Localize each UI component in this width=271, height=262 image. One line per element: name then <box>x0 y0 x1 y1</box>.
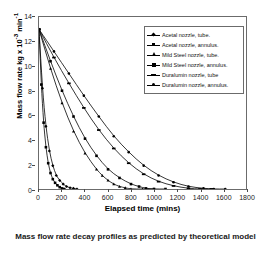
series-line <box>39 29 154 189</box>
x-tick-label: 1200 <box>170 194 186 201</box>
legend-item: Mild Steel nozzle, annulus. <box>147 60 240 70</box>
series-marker <box>61 101 64 104</box>
series-marker <box>164 188 167 189</box>
figure-caption: Mass flow rate decay profiles as predict… <box>10 232 261 242</box>
x-axis-title: Elapsed time (mins) <box>38 204 247 213</box>
series-marker <box>84 152 87 155</box>
x-tick-mark <box>131 189 132 192</box>
series-marker <box>44 125 47 128</box>
series-marker <box>42 121 45 124</box>
series-marker <box>138 185 141 188</box>
series-marker <box>107 168 110 171</box>
series-marker <box>56 184 59 187</box>
series-marker <box>187 185 190 188</box>
series-marker <box>98 115 101 118</box>
series-marker <box>83 94 86 97</box>
series-marker <box>127 151 130 154</box>
legend-marker-icon <box>147 81 160 89</box>
series-marker <box>142 173 146 175</box>
legend-item: Duralumin nozzle, tube <box>147 70 240 80</box>
legend-label: Mild Steel nozzle, annulus. <box>162 62 227 68</box>
series-marker <box>142 164 145 167</box>
x-tick-label: 1400 <box>193 194 209 201</box>
x-tick-mark <box>224 189 225 192</box>
series-marker <box>82 107 86 109</box>
series-marker <box>53 50 56 53</box>
series-marker <box>49 67 52 70</box>
series-marker <box>52 178 55 181</box>
series-marker <box>48 149 51 152</box>
series-marker <box>202 187 205 189</box>
x-tick-mark <box>108 189 109 192</box>
legend-marker-icon <box>147 71 160 79</box>
y-tick-label: 12 <box>24 37 32 44</box>
y-tick-mark <box>32 16 35 17</box>
legend-marker-icon <box>147 61 160 69</box>
series-marker <box>127 162 131 164</box>
x-tick-mark <box>177 189 178 192</box>
series-marker <box>68 186 71 189</box>
series-marker <box>67 82 71 84</box>
y-tick-mark <box>32 91 35 92</box>
series-marker <box>45 146 48 149</box>
series-marker <box>84 137 87 140</box>
series-marker <box>157 181 161 183</box>
legend-item: Mild Steel nozzle, tube. <box>147 50 240 60</box>
series-marker <box>157 174 160 177</box>
legend-label: Acetal nozzle, annulus. <box>162 42 219 48</box>
x-tick-mark <box>154 189 155 192</box>
series-marker <box>61 89 64 92</box>
series-marker <box>63 188 66 189</box>
series-marker <box>112 135 115 138</box>
series-marker <box>75 187 78 189</box>
series-line <box>39 29 77 189</box>
series-marker <box>51 164 54 167</box>
legend-marker-icon <box>147 41 160 49</box>
series-marker <box>95 155 98 158</box>
legend-item: Acetal nozzle, annulus. <box>147 40 240 50</box>
x-tick-label: 1000 <box>146 194 162 201</box>
y-tick-mark <box>32 165 35 166</box>
legend-label: Duralumin nozzle, annulus. <box>162 82 228 88</box>
legend: Acetal nozzle, tube.Acetal nozzle, annul… <box>144 26 244 94</box>
y-tick-mark <box>32 190 35 191</box>
series-marker <box>52 57 56 59</box>
y-tick-mark <box>32 66 35 67</box>
chart-figure: Mass flow rate kg x 10-3 min-1 024681012… <box>0 0 271 262</box>
x-tick-label: 1600 <box>216 194 232 201</box>
series-marker <box>172 185 176 187</box>
legend-marker <box>152 52 156 56</box>
series-marker <box>118 177 121 180</box>
series-marker <box>68 72 71 75</box>
legend-marker <box>152 63 156 67</box>
x-tick-label: 1800 <box>239 194 255 201</box>
series-marker <box>213 188 216 189</box>
series-marker <box>145 187 148 189</box>
x-tick-mark <box>247 189 248 192</box>
legend-marker-icon <box>147 51 160 59</box>
series-marker <box>130 183 133 186</box>
legend-marker <box>152 83 155 86</box>
y-tick-mark <box>32 41 35 42</box>
x-tick-label: 600 <box>102 194 114 201</box>
x-axis-ticks: 020040060080010001200140016001800 <box>38 192 247 204</box>
legend-item: Acetal nozzle, tube. <box>147 30 240 40</box>
series-marker <box>49 172 52 175</box>
legend-marker <box>151 74 156 76</box>
legend-label: Mild Steel nozzle, tube. <box>162 52 219 58</box>
y-tick-mark <box>32 140 35 141</box>
legend-marker <box>152 43 155 46</box>
x-tick-mark <box>201 189 202 192</box>
y-tick-label: 14 <box>24 13 32 20</box>
x-tick-label: 400 <box>79 194 91 201</box>
y-axis-ticks: 02468101214 <box>16 16 35 190</box>
series-marker <box>54 182 57 185</box>
series-marker <box>72 115 75 118</box>
legend-item: Duralumin nozzle, annulus. <box>147 80 240 90</box>
legend-label: Acetal nozzle, tube. <box>162 32 210 38</box>
y-tick-label: 10 <box>24 62 32 69</box>
x-tick-label: 200 <box>55 194 67 201</box>
x-tick-mark <box>61 189 62 192</box>
x-tick-label: 0 <box>36 194 40 201</box>
series-marker <box>172 181 175 184</box>
